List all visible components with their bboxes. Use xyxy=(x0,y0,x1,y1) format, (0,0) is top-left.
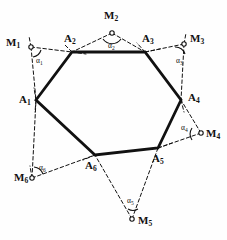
dashed-segment-m3-a4 xyxy=(181,44,184,100)
label-point-a5: A5 xyxy=(152,153,164,164)
label-angle-alpha3: α3 xyxy=(176,57,183,65)
dashed-segment-m1-a1 xyxy=(31,47,36,100)
label-angle-alpha5: α5 xyxy=(127,197,134,205)
label-point-a4: A4 xyxy=(188,92,200,103)
point-marker-m3 xyxy=(182,42,186,46)
point-marker-m5 xyxy=(130,217,134,221)
angle-arc-alpha5 xyxy=(128,209,138,210)
label-point-m2: M2 xyxy=(104,10,118,21)
dashed-segment-m5-a6 xyxy=(95,155,132,219)
point-marker-m2 xyxy=(110,31,114,35)
label-angle-alpha6: α6 xyxy=(39,164,46,172)
geometry-figure: M1 M2 M3 M4 M5 M6 A1 A2 A3 A4 A5 A6 α1 α… xyxy=(0,0,227,240)
label-point-a1: A1 xyxy=(19,94,31,105)
dashed-ext-a2-upleft xyxy=(64,44,72,52)
label-point-m5: M5 xyxy=(138,215,152,226)
angle-arc-alpha4 xyxy=(190,128,192,140)
hexagon-outline xyxy=(36,52,181,155)
label-angle-alpha4: α4 xyxy=(181,124,188,132)
label-point-m1: M1 xyxy=(6,37,20,48)
label-angle-alpha2: α2 xyxy=(108,42,115,50)
label-point-m4: M4 xyxy=(206,128,220,139)
label-angle-alpha1: α1 xyxy=(36,57,43,65)
label-point-a3: A3 xyxy=(142,33,154,44)
point-marker-m6 xyxy=(30,176,34,180)
label-point-m3: M3 xyxy=(190,33,204,44)
dashed-ext-a3-right xyxy=(145,49,160,52)
label-point-a6: A6 xyxy=(85,160,97,171)
point-marker-m1 xyxy=(29,45,33,49)
label-point-m6: M6 xyxy=(14,172,28,183)
point-marker-m4 xyxy=(199,131,203,135)
dashed-segment-m1-a2 xyxy=(31,47,72,52)
label-point-a2: A2 xyxy=(64,33,76,44)
